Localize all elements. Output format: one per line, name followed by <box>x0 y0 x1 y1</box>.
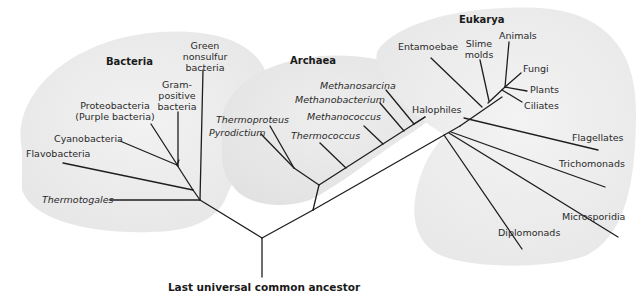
taxon-methanobacterium: Methanobacterium <box>295 94 385 105</box>
taxon-plants: Plants <box>530 84 559 95</box>
taxon-halophiles: Halophiles <box>412 104 462 115</box>
taxon-flavobacteria: Flavobacteria <box>26 148 90 159</box>
taxon-ciliates: Ciliates <box>524 100 559 111</box>
taxon-line: bacteria <box>157 101 196 112</box>
taxon-microsporidia: Microsporidia <box>562 211 625 222</box>
taxon-line: nonsulfur <box>183 51 228 62</box>
taxon-thermotogales: Thermotogales <box>42 194 113 205</box>
taxon-pyrodictium: Pyrodictium <box>209 127 266 138</box>
taxon-animals: Animals <box>499 30 537 41</box>
branch-archaea-eukarya <box>262 210 313 238</box>
domain-label-archaea: Archaea <box>290 55 336 66</box>
root-label: Last universal common ancestor <box>168 281 360 293</box>
taxon-line: molds <box>465 49 494 60</box>
taxon-green-nonsulfur-bacteria: Green nonsulfur bacteria <box>183 40 228 73</box>
phylogenetic-tree <box>0 0 641 300</box>
taxon-trichomonads: Trichomonads <box>559 158 625 169</box>
domain-label-eukarya: Eukarya <box>459 14 505 25</box>
taxon-diplomonads: Diplomonads <box>498 227 560 238</box>
taxon-line: positive <box>157 90 196 101</box>
taxon-proteobacteria: Proteobacteria (Purple bacteria) <box>75 100 154 122</box>
taxon-fungi: Fungi <box>523 63 549 74</box>
taxon-flagellates: Flagellates <box>572 132 623 143</box>
taxon-thermoproteus: Thermoproteus <box>216 114 289 125</box>
taxon-methanosarcina: Methanosarcina <box>320 80 396 91</box>
branch-bacteria <box>200 200 262 238</box>
taxon-cyanobacteria: Cyanobacteria <box>54 133 123 144</box>
taxon-entamoebae: Entamoebae <box>398 41 458 52</box>
taxon-line: Slime <box>465 38 494 49</box>
taxon-thermococcus: Thermococcus <box>291 130 360 141</box>
taxon-line: bacteria <box>183 62 228 73</box>
domain-label-bacteria: Bacteria <box>106 56 153 67</box>
taxon-slime-molds: Slime molds <box>465 38 494 60</box>
taxon-line: (Purple bacteria) <box>75 111 154 122</box>
taxon-gram-positive-bacteria: Gram- positive bacteria <box>157 79 196 112</box>
taxon-methanococcus: Methanococcus <box>307 111 381 122</box>
taxon-line: Green <box>183 40 228 51</box>
taxon-line: Gram- <box>157 79 196 90</box>
taxon-line: Proteobacteria <box>75 100 154 111</box>
